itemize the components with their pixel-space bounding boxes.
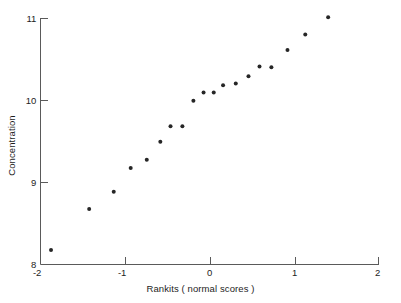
data-point — [169, 124, 173, 128]
x-tick-label-minus2: -2 — [33, 267, 41, 278]
data-point — [303, 32, 307, 36]
data-point-group — [49, 15, 330, 252]
data-point — [221, 83, 225, 87]
x-tick-label-2: 2 — [375, 267, 380, 278]
data-point — [234, 82, 238, 86]
data-point — [180, 124, 184, 128]
x-axis-ticks — [126, 257, 379, 265]
data-point — [191, 99, 195, 103]
data-point — [202, 91, 206, 95]
y-tick-label-11: 11 — [18, 13, 36, 24]
y-axis-title: Concentration — [6, 91, 17, 201]
data-point — [158, 140, 162, 144]
data-point — [212, 91, 216, 95]
data-point — [246, 74, 250, 78]
data-point — [258, 64, 262, 68]
data-point — [326, 15, 330, 19]
data-point — [49, 248, 53, 252]
data-point — [285, 48, 289, 52]
data-point — [112, 190, 116, 194]
x-tick-label-0: 0 — [207, 267, 212, 278]
y-axis-ticks — [41, 19, 49, 183]
x-tick-label-minus1: -1 — [118, 267, 126, 278]
x-axis-title: Rankits ( normal scores ) — [0, 283, 401, 294]
x-tick-label-1: 1 — [292, 267, 297, 278]
axis-lines — [41, 18, 380, 265]
y-tick-label-10: 10 — [18, 95, 36, 106]
data-point — [87, 207, 91, 211]
y-tick-label-9: 9 — [18, 177, 36, 188]
scatter-plot-figure: 11 10 9 8 -2 -1 0 1 2 Rankits ( normal s… — [0, 0, 401, 303]
data-point — [145, 158, 149, 162]
data-point — [129, 166, 133, 170]
data-point — [269, 65, 273, 69]
plot-canvas — [0, 0, 401, 303]
